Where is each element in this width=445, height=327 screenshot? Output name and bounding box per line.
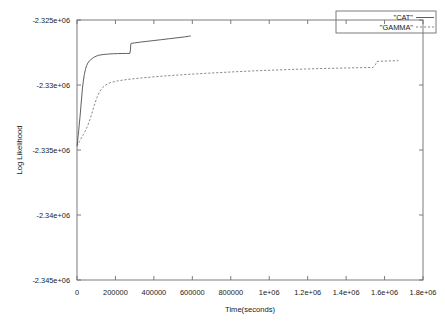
plot-frame	[77, 20, 423, 280]
x-tick-label: 400000	[142, 288, 167, 297]
x-tick-label: 200000	[103, 288, 128, 297]
y-tick-label: -2.34e+06	[37, 211, 71, 220]
series-line-gamma	[77, 61, 398, 147]
legend-label-gamma: "GAMMA"	[380, 23, 414, 32]
x-tick-label: 600000	[180, 288, 205, 297]
x-axis-tick-marks	[77, 20, 423, 280]
x-tick-label: 1.4e+06	[333, 288, 360, 297]
x-tick-label: 1.6e+06	[371, 288, 398, 297]
x-tick-label: 1e+06	[259, 288, 280, 297]
series-line-cat	[77, 36, 191, 146]
series-layer	[77, 36, 398, 147]
y-tick-label: -2.325e+06	[32, 16, 70, 25]
x-axis-tick-labels: 02000004000006000008000001e+061.2e+061.4…	[75, 288, 437, 297]
legend-label-cat: "CAT"	[394, 13, 414, 22]
x-tick-label: 0	[75, 288, 79, 297]
y-tick-label: -2.345e+06	[32, 276, 70, 285]
x-tick-label: 800000	[218, 288, 243, 297]
legend: "CAT" "GAMMA"	[336, 11, 436, 33]
x-axis-title: Time(seconds)	[225, 305, 275, 314]
y-axis-title: Log Likelihood	[15, 126, 24, 175]
y-tick-label: -2.33e+06	[37, 81, 71, 90]
chart-container: 02000004000006000008000001e+061.2e+061.4…	[0, 0, 445, 327]
chart-plot-area: 02000004000006000008000001e+061.2e+061.4…	[0, 0, 445, 327]
x-tick-label: 1.8e+06	[410, 288, 437, 297]
y-axis-tick-labels: -2.325e+06-2.33e+06-2.335e+06-2.34e+06-2…	[32, 16, 70, 285]
y-tick-label: -2.335e+06	[32, 146, 70, 155]
x-tick-label: 1.2e+06	[294, 288, 321, 297]
y-axis-tick-marks	[77, 20, 423, 280]
